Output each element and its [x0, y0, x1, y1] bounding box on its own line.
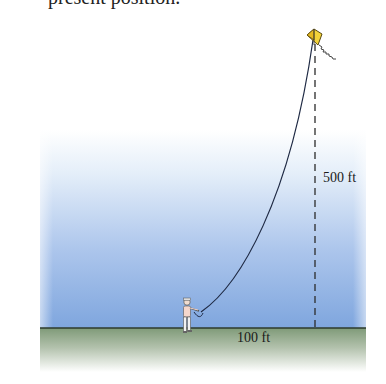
- height-label: 500 ft: [323, 170, 356, 186]
- ground: [40, 328, 366, 372]
- horizontal-distance-label: 100 ft: [237, 330, 270, 346]
- kite-diagram: [0, 0, 386, 384]
